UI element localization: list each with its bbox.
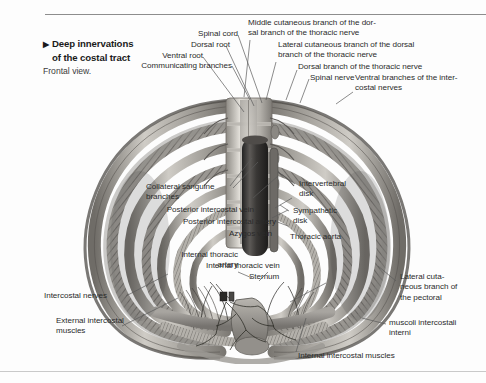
label-azygos-vein: Azygos vein [186,229,272,239]
label-dorsal-branch-thoracic-nerve: Dorsal branch of the thoracic nerve [298,62,483,72]
label-intervertebral-disk: Intervertebral disk [299,179,379,200]
bottom-divider-rule [0,371,486,372]
label-communicating-branches: Communicating branches [112,61,232,71]
label-posterior-intercostal-vein: Posterior intercostal vein [130,205,254,215]
triangle-right-icon: ▶ [43,39,49,52]
label-middle-cutaneous-branch: Middle cutaneous branch of the dor- sal … [248,18,428,39]
label-thoracic-aorta: Thoracic aorta [290,232,380,242]
label-dorsal-root: Dorsal root [150,40,230,50]
label-posterior-intercostal-artery: Posterior intercostal artery [140,217,276,227]
label-intercostal-nerves: Intercostal nerves [44,291,164,301]
label-ventral-branches-intercostal-nerves: Ventral branches of the inter- costal ne… [355,73,485,94]
label-sympathetic-disk: Sympathetic disk [293,206,373,227]
label-lateral-cutaneous-branch-pectoral: Lateral cuta- neous branch of the pector… [400,272,486,303]
label-sternum: Sternum [249,272,319,282]
top-divider-rule [45,14,486,15]
label-external-intercostal-muscles: External intercostal muscles [56,316,166,337]
label-internal-intercostal-muscles: Internal intercostal muscles [298,351,458,361]
figure-title-text-1: Deep innervations [52,38,133,49]
label-muscoli-intercostali-interni: muscoli intercostali interni [389,318,485,339]
label-collateral-sanguine-branches: Collateral sanguine branches [146,182,256,203]
label-ventral-root: Ventral root [123,51,203,61]
internal-thoracic-vessels [220,292,234,301]
label-internal-thoracic-vein: Internal thoracic vein [206,261,332,271]
figure-page: ▶Deep innervations of the costal tract F… [0,0,486,383]
label-spinal-cord: Spinal cord [158,29,238,39]
label-lateral-cutaneous-branch-dorsal: Lateral cutaneous branch of the dorsal b… [278,40,468,61]
